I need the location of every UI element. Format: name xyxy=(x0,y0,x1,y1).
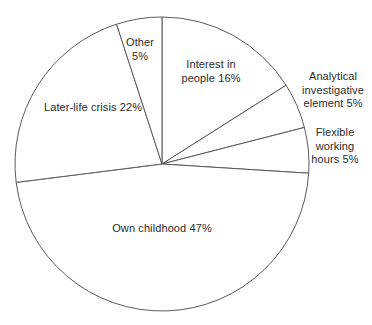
pie-slice-label-later-life-crisis: Later-life crisis 22% xyxy=(33,101,153,115)
pie-slice-own-childhood xyxy=(16,164,309,311)
pie-chart-figure: Other 5% Interest in people 16% Analytic… xyxy=(0,0,372,325)
pie-slice-label-interest-in-people: Interest in people 16% xyxy=(171,58,251,85)
pie-slice-label-flexible-working-hours: Flexible working hours 5% xyxy=(302,126,368,167)
pie-slice-label-own-childhood: Own childhood 47% xyxy=(92,222,232,236)
pie-slice-label-other: Other 5% xyxy=(119,36,161,63)
pie-slices-group xyxy=(15,17,309,311)
pie-slice-label-analytical-investigative-element: Analytical investigative element 5% xyxy=(296,70,370,111)
